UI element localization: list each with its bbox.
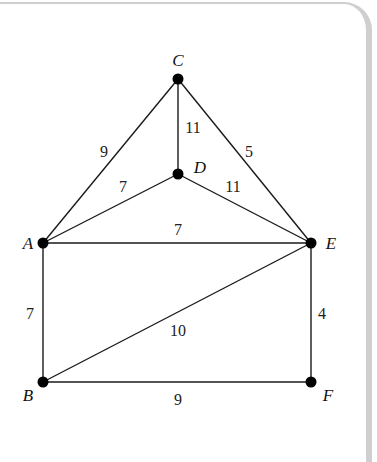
edge-weight-c-e: 5	[245, 143, 253, 160]
node-a-dot-icon	[38, 238, 49, 249]
node-d-dot-icon	[173, 169, 184, 180]
node-label-c: C	[172, 51, 184, 70]
edge-weight-d-e: 11	[225, 178, 240, 195]
edge-b-e	[43, 243, 311, 382]
edge-weight-c-d: 11	[185, 119, 200, 136]
node-label-a: A	[22, 234, 34, 253]
edge-weights-layer: 9115711771049	[26, 119, 326, 408]
node-e-dot-icon	[306, 238, 317, 249]
edge-weight-e-f: 4	[318, 305, 326, 322]
edge-a-d	[43, 174, 178, 243]
edge-weight-a-d: 7	[119, 178, 127, 195]
edge-weight-c-a: 9	[100, 143, 108, 160]
node-c-dot-icon	[173, 74, 184, 85]
edge-weight-a-e: 7	[174, 221, 182, 238]
node-label-b: B	[23, 386, 34, 405]
node-b-dot-icon	[38, 377, 49, 388]
edge-d-e	[178, 174, 311, 243]
edge-c-a	[43, 79, 178, 243]
node-label-d: D	[193, 158, 207, 177]
edge-weight-b-f: 9	[174, 391, 182, 408]
edge-weight-a-b: 7	[26, 305, 34, 322]
node-label-f: F	[322, 386, 334, 405]
node-f-dot-icon	[306, 377, 317, 388]
edge-weight-b-e: 10	[170, 322, 186, 339]
node-label-e: E	[325, 234, 337, 253]
